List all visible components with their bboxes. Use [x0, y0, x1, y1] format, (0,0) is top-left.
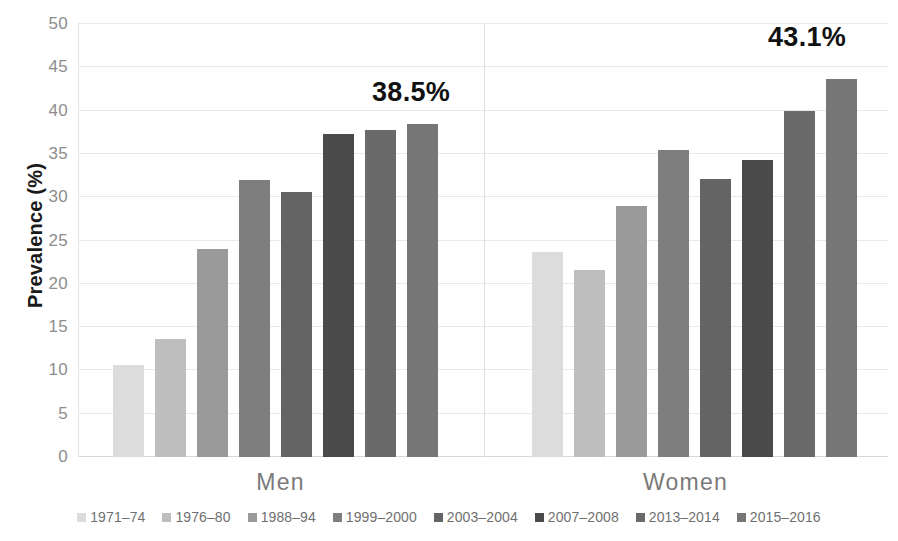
- plot-area: [78, 24, 888, 457]
- legend-label: 1988–94: [261, 509, 316, 525]
- bar-women-2013-2014: [784, 111, 815, 457]
- y-axis-ticks: 50454035302520151050: [0, 24, 78, 457]
- legend-label: 1999–2000: [346, 509, 417, 525]
- legend-swatch-icon: [162, 513, 171, 522]
- bar-men-1971-74: [113, 365, 144, 457]
- bar-men-1988-94: [197, 249, 228, 457]
- bar-women-2003-2004: [700, 179, 731, 457]
- bar-men-1976-80: [155, 339, 186, 457]
- legend-label: 1971–74: [90, 509, 145, 525]
- bar-women-1971-74: [532, 252, 563, 457]
- legend-label: 2007–2008: [548, 509, 619, 525]
- annotation-men: 38.5%: [372, 77, 450, 108]
- bar-women-1988-94: [616, 206, 647, 457]
- y-tick-label: 25: [22, 231, 68, 251]
- legend-label: 2003–2004: [447, 509, 518, 525]
- bar-women-1999-2000: [658, 150, 689, 457]
- bar-men-2007-2008: [323, 134, 354, 457]
- group-divider: [484, 24, 485, 457]
- legend-item[interactable]: 2007–2008: [535, 509, 619, 525]
- annotation-women: 43.1%: [768, 22, 846, 53]
- y-tick-label: 15: [22, 317, 68, 337]
- bar-men-1999-2000: [239, 180, 270, 457]
- category-label-men: Men: [78, 469, 483, 496]
- legend-swatch-icon: [248, 513, 257, 522]
- legend-item[interactable]: 1988–94: [248, 509, 316, 525]
- y-tick-label: 45: [22, 57, 68, 77]
- legend-swatch-icon: [535, 513, 544, 522]
- y-tick-label: 20: [22, 274, 68, 294]
- category-label-women: Women: [483, 469, 888, 496]
- bar-women-2007-2008: [742, 160, 773, 457]
- legend-swatch-icon: [636, 513, 645, 522]
- y-tick-label: 10: [22, 360, 68, 380]
- y-tick-label: 30: [22, 187, 68, 207]
- legend-swatch-icon: [737, 513, 746, 522]
- bar-group-women: [483, 24, 888, 457]
- legend-swatch-icon: [77, 513, 86, 522]
- legend-item[interactable]: 2003–2004: [434, 509, 518, 525]
- y-tick-label: 5: [22, 404, 68, 424]
- legend-item[interactable]: 2015–2016: [737, 509, 821, 525]
- legend-swatch-icon: [333, 513, 342, 522]
- y-tick-label: 40: [22, 101, 68, 121]
- bar-women-1976-80: [574, 270, 605, 457]
- legend-label: 2013–2014: [649, 509, 720, 525]
- bar-men-2003-2004: [281, 192, 312, 457]
- legend-label: 2015–2016: [750, 509, 821, 525]
- y-tick-label: 35: [22, 144, 68, 164]
- bar-men-2015-2016: [407, 124, 438, 457]
- bar-men-2013-2014: [365, 130, 396, 457]
- bar-women-2015-2016: [826, 79, 857, 457]
- legend-swatch-icon: [434, 513, 443, 522]
- legend-item[interactable]: 1999–2000: [333, 509, 417, 525]
- legend-item[interactable]: 2013–2014: [636, 509, 720, 525]
- legend-label: 1976–80: [175, 509, 230, 525]
- legend-item[interactable]: 1971–74: [77, 509, 145, 525]
- y-tick-label: 0: [22, 447, 68, 467]
- chart-legend: 1971–741976–801988–941999–20002003–20042…: [0, 509, 898, 525]
- legend-item[interactable]: 1976–80: [162, 509, 230, 525]
- y-tick-label: 50: [22, 14, 68, 34]
- bar-chart: Prevalence (%) 50454035302520151050 1971…: [0, 0, 898, 541]
